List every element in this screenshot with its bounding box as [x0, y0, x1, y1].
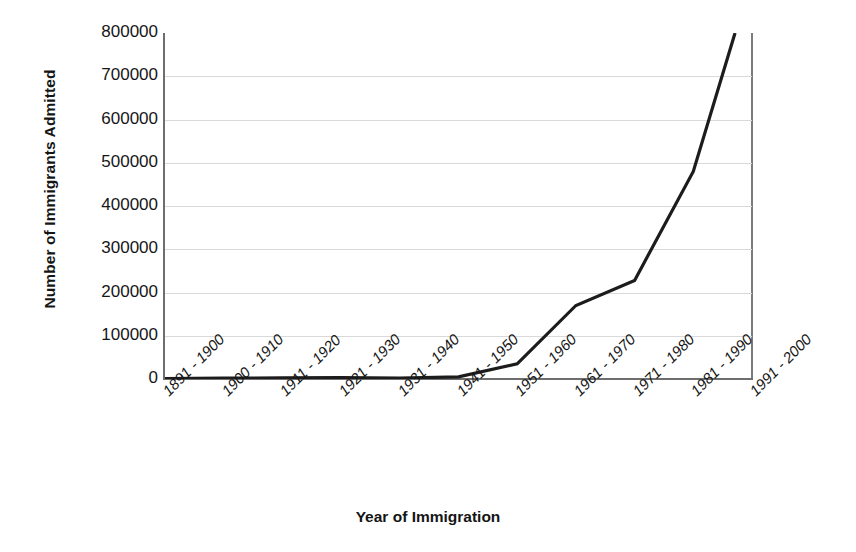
y-tick-label: 300000 — [8, 238, 158, 258]
plot-area — [165, 33, 752, 379]
y-tick-label: 800000 — [8, 22, 158, 42]
y-tick-label: 200000 — [8, 282, 158, 302]
y-tick-label: 0 — [8, 368, 158, 388]
y-tick-label: 500000 — [8, 152, 158, 172]
x-axis-title: Year of Immigration — [0, 508, 856, 526]
line-chart: Number of Immigrants Admitted 8000007000… — [0, 0, 856, 552]
y-tick-label: 600000 — [8, 109, 158, 129]
y-tick-label: 100000 — [8, 325, 158, 345]
x-axis-tick-labels: 1891 - 19001900 - 19101911 - 19201921 - … — [165, 379, 752, 499]
y-tick-label: 700000 — [8, 65, 158, 85]
y-axis-tick-labels: 8000007000006000005000004000003000002000… — [0, 0, 158, 552]
x-tick-label: 1991 - 2000 — [746, 330, 815, 399]
data-series-line — [165, 33, 752, 379]
y-tick-label: 400000 — [8, 195, 158, 215]
